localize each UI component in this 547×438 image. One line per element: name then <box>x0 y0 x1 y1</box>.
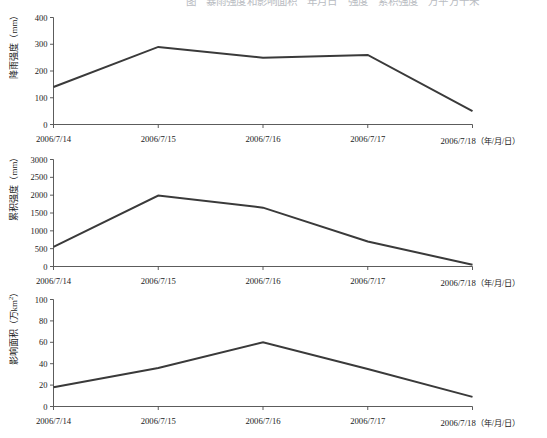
chart-rainfall-intensity: 降雨强度（mm） 0100200300400 2006/7/142006/7/1… <box>0 10 547 155</box>
y-tick-label: 0 <box>43 120 47 130</box>
y-tick-label: 2500 <box>31 172 48 182</box>
x-axis-unit-label: （年/月/日） <box>476 279 521 288</box>
y-tick-label: 200 <box>35 66 48 76</box>
y-tick-label: 3000 <box>31 155 48 165</box>
x-tick-label: 2006/7/16 <box>245 416 280 426</box>
y-tick-label: 1500 <box>31 208 48 218</box>
chart-accumulated-intensity: 累积强度（mm） 050010001500200025003000 2006/7… <box>0 152 547 297</box>
y-axis-label-affected-sup: 2 <box>7 297 14 300</box>
x-tick-label: 2006/7/18（年/月/日） <box>441 416 521 428</box>
x-axis-unit-label: （年/月/日） <box>476 419 521 428</box>
y-axis-label-affected-tail: ） <box>9 288 19 297</box>
x-tick-label: 2006/7/16 <box>245 276 280 286</box>
data-series-line <box>54 342 473 397</box>
y-tick-label: 80 <box>39 316 48 326</box>
y-tick-label: 100 <box>35 295 48 305</box>
x-tick-label: 2006/7/15 <box>141 276 176 286</box>
top-caption-strip: 图 暴雨强度和影响面积 年月日 强度 累积强度 万平方千米 <box>0 0 547 9</box>
y-tick-label: 100 <box>35 93 48 103</box>
x-axis-labels-accum: 2006/7/142006/7/152006/7/162006/7/172006… <box>0 276 547 290</box>
x-tick-label: 2006/7/17 <box>350 276 385 286</box>
x-tick-label: 2006/7/15 <box>141 134 176 144</box>
x-axis-unit-label: （年/月/日） <box>476 137 521 146</box>
chart-page: 图 暴雨强度和影响面积 年月日 强度 累积强度 万平方千米 降雨强度（mm） 0… <box>0 0 547 438</box>
chart-affected-area: 影响面积（万km2） 020406080100 2006/7/142006/7/… <box>0 292 547 438</box>
y-tick-label: 1000 <box>31 226 48 236</box>
y-tick-label: 2000 <box>31 190 48 200</box>
x-tick-label: 2006/7/17 <box>350 134 385 144</box>
x-axis-labels-affected: 2006/7/142006/7/152006/7/162006/7/172006… <box>0 416 547 430</box>
y-tick-label: 60 <box>39 337 48 347</box>
plot-area-affected: 影响面积（万km2） 020406080100 <box>0 292 547 412</box>
y-axis-label-rainfall: 降雨强度（mm） <box>7 1 20 89</box>
x-tick-label: 2006/7/15 <box>141 416 176 426</box>
plot-area-accum: 累积强度（mm） 050010001500200025003000 <box>0 152 547 272</box>
y-tick-label: 300 <box>35 39 48 49</box>
y-axis-label-affected: 影响面积（万km2） <box>7 283 20 371</box>
svg-rainfall: 0100200300400 <box>0 10 547 130</box>
x-tick-label: 2006/7/14 <box>36 276 71 286</box>
y-tick-label: 400 <box>35 13 48 23</box>
y-tick-label: 500 <box>35 244 48 254</box>
y-tick-label: 20 <box>39 380 48 390</box>
y-axis-label-accum: 累积强度（mm） <box>7 143 20 231</box>
data-series-line <box>54 196 473 265</box>
y-tick-label: 40 <box>39 359 48 369</box>
svg-accum: 050010001500200025003000 <box>0 152 547 272</box>
plot-area-rainfall: 降雨强度（mm） 0100200300400 <box>0 10 547 130</box>
y-tick-label: 0 <box>43 262 47 272</box>
y-axis-label-affected-main: 影响面积（万km <box>9 300 19 366</box>
x-tick-label: 2006/7/14 <box>36 416 71 426</box>
svg-affected: 020406080100 <box>0 292 547 412</box>
x-tick-label: 2006/7/14 <box>36 134 71 144</box>
data-series-line <box>54 47 473 111</box>
x-tick-label: 2006/7/17 <box>350 416 385 426</box>
x-tick-label: 2006/7/18（年/月/日） <box>441 134 521 146</box>
x-axis-labels-rainfall: 2006/7/142006/7/152006/7/162006/7/172006… <box>0 134 547 148</box>
top-caption-text: 图 暴雨强度和影响面积 年月日 强度 累积强度 万平方千米 <box>186 0 547 8</box>
x-tick-label: 2006/7/18（年/月/日） <box>441 276 521 288</box>
y-tick-label: 0 <box>43 402 47 412</box>
x-tick-label: 2006/7/16 <box>245 134 280 144</box>
